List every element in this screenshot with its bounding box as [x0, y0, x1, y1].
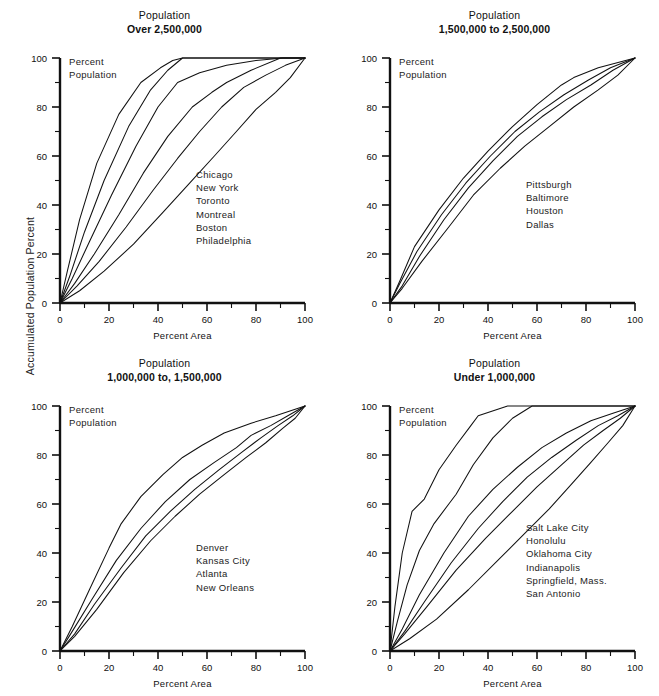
- percent-population-note-line2: Population: [69, 417, 117, 428]
- legend-entry: Indianapolis: [526, 562, 580, 573]
- x-axis-tick-label: 0: [57, 314, 62, 325]
- series-line: [390, 406, 635, 651]
- legend-entry: Kansas City: [196, 555, 250, 566]
- plot-area: 020406080100020406080100Percent AreaPerc…: [330, 0, 659, 348]
- x-axis-tick-label: 0: [57, 662, 62, 673]
- x-axis-tick-label: 80: [581, 314, 592, 325]
- legend-entry: San Antonio: [526, 588, 581, 599]
- y-axis-tick-label: 0: [42, 298, 47, 309]
- series-line: [390, 58, 635, 303]
- legend-entry: Pittsburgh: [526, 179, 572, 190]
- y-axis-tick-label: 60: [366, 151, 377, 162]
- x-axis-tick-label: 40: [153, 314, 164, 325]
- series-line: [60, 58, 305, 303]
- legend-entry: Salt Lake City: [526, 522, 589, 533]
- legend-entry: Springfield, Mass.: [526, 575, 607, 586]
- x-axis-tick-label: 100: [297, 662, 313, 673]
- series-line: [390, 406, 635, 651]
- legend-entry: Atlanta: [196, 568, 228, 579]
- legend-entry: Denver: [196, 542, 228, 553]
- percent-population-note-line1: Percent: [69, 56, 104, 67]
- x-axis-title: Percent Area: [483, 330, 542, 341]
- percent-population-note-line1: Percent: [69, 404, 104, 415]
- x-axis-tick-label: 0: [387, 314, 392, 325]
- y-axis-tick-label: 60: [36, 499, 47, 510]
- y-axis-tick-label: 100: [31, 401, 47, 412]
- series-line: [60, 406, 305, 651]
- series-line: [60, 406, 305, 651]
- y-axis-tick-label: 20: [36, 597, 47, 608]
- x-axis-title: Percent Area: [483, 678, 542, 689]
- x-axis-title: Percent Area: [153, 678, 212, 689]
- legend-entry: New York: [196, 182, 239, 193]
- panel-under-1000000: Population Under 1,000,000 0204060801000…: [330, 348, 659, 696]
- x-axis-tick-label: 60: [532, 662, 543, 673]
- x-axis-tick-label: 100: [627, 662, 643, 673]
- series-line: [390, 58, 635, 303]
- series-line: [390, 406, 635, 651]
- figure-root: Accumulated Population Percent Populatio…: [0, 0, 659, 696]
- x-axis-tick-label: 60: [202, 662, 213, 673]
- legend-entry: Philadelphia: [196, 235, 252, 246]
- x-axis-tick-label: 20: [104, 314, 115, 325]
- y-axis-tick-label: 0: [42, 646, 47, 657]
- percent-population-note-line1: Percent: [399, 56, 434, 67]
- legend-entry: New Orleans: [196, 582, 254, 593]
- y-axis-tick-label: 100: [361, 401, 377, 412]
- y-axis-tick-label: 0: [372, 298, 377, 309]
- series-line: [60, 58, 305, 303]
- x-axis-tick-label: 60: [532, 314, 543, 325]
- x-axis-tick-label: 40: [483, 314, 494, 325]
- legend-entry: Boston: [196, 222, 227, 233]
- x-axis-tick-label: 80: [581, 662, 592, 673]
- series-line: [390, 58, 635, 303]
- x-axis-tick-label: 0: [387, 662, 392, 673]
- x-axis-tick-label: 20: [434, 662, 445, 673]
- series-line: [390, 58, 635, 303]
- plot-area: 020406080100020406080100Percent AreaPerc…: [330, 348, 659, 696]
- y-axis-tick-label: 0: [372, 646, 377, 657]
- legend-entry: Oklahoma City: [526, 548, 592, 559]
- x-axis-tick-label: 80: [251, 314, 262, 325]
- series-line: [390, 406, 635, 651]
- x-axis-title: Percent Area: [153, 330, 212, 341]
- percent-population-note-line2: Population: [399, 417, 447, 428]
- percent-population-note-line2: Population: [399, 69, 447, 80]
- series-line: [60, 406, 305, 651]
- legend-entry: Chicago: [196, 169, 233, 180]
- series-line: [60, 58, 305, 303]
- series-line: [60, 58, 305, 303]
- y-axis-tick-label: 60: [36, 151, 47, 162]
- percent-population-note-line1: Percent: [399, 404, 434, 415]
- series-line: [390, 406, 635, 651]
- x-axis-tick-label: 80: [251, 662, 262, 673]
- x-axis-tick-label: 60: [202, 314, 213, 325]
- x-axis-tick-label: 40: [153, 662, 164, 673]
- series-line: [390, 406, 635, 651]
- series-line: [60, 406, 305, 651]
- y-axis-tick-label: 40: [366, 548, 377, 559]
- x-axis-tick-label: 40: [483, 662, 494, 673]
- y-axis-tick-label: 40: [36, 200, 47, 211]
- legend-entry: Dallas: [526, 219, 554, 230]
- plot-area: 020406080100020406080100Percent AreaPerc…: [0, 348, 329, 696]
- y-axis-tick-label: 100: [31, 53, 47, 64]
- y-axis-tick-label: 20: [366, 249, 377, 260]
- x-axis-tick-label: 100: [627, 314, 643, 325]
- x-axis-tick-label: 100: [297, 314, 313, 325]
- y-axis-tick-label: 40: [36, 548, 47, 559]
- panel-1500000-to-2500000: Population 1,500,000 to 2,500,000 020406…: [330, 0, 659, 348]
- legend-entry: Toronto: [196, 195, 230, 206]
- percent-population-note-line2: Population: [69, 69, 117, 80]
- y-axis-tick-label: 20: [366, 597, 377, 608]
- y-axis-tick-label: 80: [36, 102, 47, 113]
- y-axis-tick-label: 60: [366, 499, 377, 510]
- y-axis-tick-label: 80: [36, 450, 47, 461]
- legend-entry: Honolulu: [526, 535, 566, 546]
- series-line: [60, 58, 305, 303]
- y-axis-tick-label: 100: [361, 53, 377, 64]
- y-axis-tick-label: 80: [366, 450, 377, 461]
- y-axis-tick-label: 80: [366, 102, 377, 113]
- x-axis-tick-label: 20: [434, 314, 445, 325]
- legend-entry: Montreal: [196, 209, 235, 220]
